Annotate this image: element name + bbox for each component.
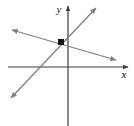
y-axis-label: y <box>56 3 62 15</box>
intersection-point <box>58 39 64 45</box>
coordinate-plane-figure: x y <box>0 0 134 126</box>
graph-canvas: x y <box>0 0 134 126</box>
x-axis-label: x <box>121 68 127 80</box>
rising-line <box>11 8 96 98</box>
